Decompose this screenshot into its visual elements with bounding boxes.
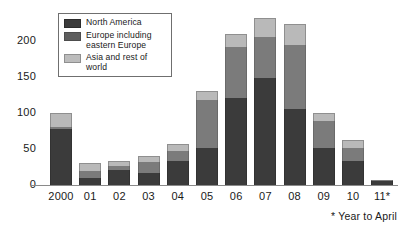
x-axis-baseline bbox=[30, 185, 398, 186]
bar-segment-north-america bbox=[167, 161, 189, 185]
bar-segment-asia bbox=[225, 34, 247, 47]
chart-footnote: * Year to April bbox=[331, 210, 397, 222]
bar-05 bbox=[196, 91, 218, 185]
legend-item-asia: Asia and rest of world bbox=[64, 53, 167, 72]
bar-segment-north-america bbox=[284, 109, 306, 185]
bar-segment-north-america bbox=[138, 173, 160, 185]
bar-segment-asia bbox=[313, 113, 335, 121]
bar-10 bbox=[342, 140, 364, 185]
bar-segment-asia bbox=[342, 140, 364, 148]
bar-segment-europe bbox=[313, 121, 335, 148]
bar-segment-north-america bbox=[79, 178, 101, 185]
bar-09 bbox=[313, 113, 335, 185]
bar-segment-europe bbox=[79, 171, 101, 178]
legend-label-north-america: North America bbox=[86, 18, 142, 28]
bar-segment-north-america bbox=[254, 78, 276, 185]
stacked-bar-chart: 050100150200 North America Europe includ… bbox=[0, 0, 407, 234]
bar-segment-asia bbox=[196, 91, 218, 100]
bar-segment-europe bbox=[342, 148, 364, 161]
y-axis-tick-label: 100 bbox=[2, 107, 36, 118]
bar-segment-europe bbox=[196, 100, 218, 148]
legend-swatch-icon-europe bbox=[64, 32, 81, 41]
legend-swatch-icon-asia bbox=[64, 54, 81, 63]
legend-item-europe: Europe including eastern Europe bbox=[64, 31, 167, 50]
legend-item-north-america: North America bbox=[64, 18, 167, 28]
bar-2000 bbox=[50, 113, 72, 185]
bar-02 bbox=[108, 161, 130, 185]
bar-segment-asia bbox=[50, 113, 72, 127]
legend-label-europe: Europe including eastern Europe bbox=[86, 31, 167, 50]
bar-07 bbox=[254, 18, 276, 185]
bar-segment-north-america bbox=[196, 148, 218, 185]
y-axis-tick-label: 200 bbox=[2, 35, 36, 46]
bar-04 bbox=[167, 144, 189, 185]
chart-legend: North America Europe including eastern E… bbox=[58, 13, 172, 77]
bar-segment-north-america bbox=[225, 98, 247, 185]
y-axis: 050100150200 bbox=[0, 0, 36, 234]
legend-label-asia: Asia and rest of world bbox=[86, 53, 167, 72]
bar-segment-north-america bbox=[371, 181, 393, 185]
bar-segment-europe bbox=[284, 45, 306, 110]
bar-segment-europe bbox=[225, 47, 247, 98]
bar-segment-asia bbox=[254, 18, 276, 37]
legend-swatch-icon-north-america bbox=[64, 19, 81, 28]
bar-segment-asia bbox=[167, 144, 189, 151]
x-axis-tick-label: 11* bbox=[363, 190, 401, 202]
y-axis-tick-label: 50 bbox=[2, 143, 36, 154]
bar-segment-europe bbox=[138, 162, 160, 173]
bar-segment-asia bbox=[79, 163, 101, 171]
bar-segment-north-america bbox=[50, 129, 72, 185]
bar-segment-north-america bbox=[108, 170, 130, 185]
bar-segment-europe bbox=[254, 37, 276, 79]
bar-segment-north-america bbox=[313, 148, 335, 185]
bar-01 bbox=[79, 163, 101, 185]
bar-segment-asia bbox=[284, 24, 306, 45]
bar-segment-north-america bbox=[342, 161, 364, 185]
bar-08 bbox=[284, 24, 306, 185]
bar-11star bbox=[371, 180, 393, 185]
bar-03 bbox=[138, 156, 160, 185]
bar-06 bbox=[225, 34, 247, 185]
y-axis-tick-label: 150 bbox=[2, 71, 36, 82]
bar-segment-europe bbox=[167, 151, 189, 161]
